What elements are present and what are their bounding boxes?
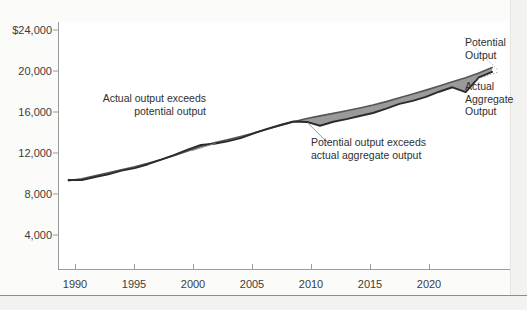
annotation-actual-exceeds-potential: Actual output exceedspotential output xyxy=(78,92,206,117)
annotation-potential-exceeds-actual-line1: Potential output exceeds xyxy=(311,136,426,148)
annotation-potential-output: PotentialOutput xyxy=(465,36,525,61)
annotation-potential-output-line1: Potential xyxy=(465,36,506,48)
annotation-actual-aggregate-output-line2: Aggregate xyxy=(465,93,513,105)
annotation-actual-aggregate-output-line3: Output xyxy=(465,105,497,117)
annotation-actual-aggregate-output: ActualAggregateOutput xyxy=(465,80,525,118)
figure-root: $24,000 20,000 16,000 12,000 8,000 4,000… xyxy=(0,0,527,310)
page-bottom-rule xyxy=(0,295,527,296)
annotation-actual-exceeds-potential-line2: potential output xyxy=(134,105,206,117)
annotation-potential-exceeds-actual-line2: actual aggregate output xyxy=(311,149,421,161)
annotation-potential-output-line2: Output xyxy=(465,49,497,61)
annotation-potential-exceeds-actual: Potential output exceedsactual aggregate… xyxy=(311,136,471,161)
annotation-actual-exceeds-potential-line1: Actual output exceeds xyxy=(103,92,206,104)
annotation-actual-aggregate-output-line1: Actual xyxy=(465,80,494,92)
